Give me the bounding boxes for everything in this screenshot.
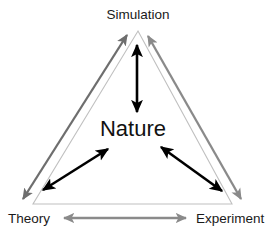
diagram-canvas: Simulation Theory Experiment Nature — [0, 0, 276, 233]
node-label-simulation: Simulation — [106, 8, 169, 22]
edge-nature-theory — [43, 149, 108, 190]
node-label-nature: Nature — [100, 118, 166, 140]
node-label-theory: Theory — [8, 212, 50, 226]
node-label-experiment: Experiment — [196, 212, 264, 226]
